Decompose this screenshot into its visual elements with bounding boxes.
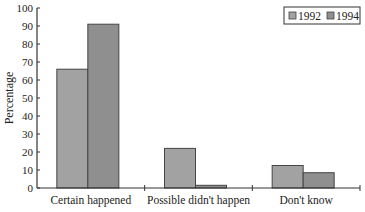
y-tick-label: 70	[22, 56, 34, 68]
bar-1992	[165, 148, 196, 188]
y-axis-label: Percentage	[2, 72, 16, 125]
y-tick-label: 40	[22, 110, 34, 122]
y-tick-label: 60	[22, 74, 34, 86]
bar-1992	[57, 69, 88, 188]
y-tick-label: 20	[22, 146, 34, 158]
legend-label-1994: 1994	[336, 10, 359, 22]
legend: 19921994	[284, 7, 360, 24]
y-tick-label: 10	[22, 164, 34, 176]
y-tick-label: 0	[28, 182, 34, 194]
bar-chart: 0102030405060708090100 Certain happenedP…	[0, 0, 365, 212]
y-axis: 0102030405060708090100	[17, 2, 41, 194]
y-tick-label: 90	[22, 20, 34, 32]
y-tick-label: 50	[22, 92, 34, 104]
x-axis: Certain happenedPossible didn't happenDo…	[37, 185, 360, 207]
legend-swatch-1992	[289, 12, 296, 19]
y-tick-label: 30	[22, 128, 34, 140]
y-tick-label: 100	[17, 2, 34, 14]
x-tick-label: Certain happened	[50, 194, 131, 207]
y-tick-label: 80	[22, 38, 34, 50]
bar-1994	[88, 24, 119, 188]
bars	[57, 24, 334, 188]
legend-label-1992: 1992	[298, 10, 321, 22]
bar-1994	[303, 173, 334, 188]
x-tick-label: Don't know	[279, 194, 333, 206]
bar-1992	[272, 166, 303, 189]
legend-swatch-1994	[327, 12, 334, 19]
x-tick-label: Possible didn't happen	[147, 194, 250, 207]
